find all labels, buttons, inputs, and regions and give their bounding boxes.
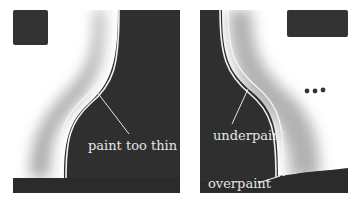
label-paint-too-thin: paint too thin: [88, 138, 178, 153]
top-left-block: [13, 10, 48, 45]
paint-stroke-figure: paint too thin underpaint: [0, 0, 360, 208]
label-overpaint: overpaint: [208, 176, 272, 191]
right-panel: underpaint overpaint: [200, 10, 348, 193]
left-panel: paint too thin: [13, 10, 180, 193]
top-right-block: [287, 10, 348, 37]
label-underpaint: underpaint: [213, 128, 287, 143]
bottom-band-left: [13, 178, 180, 193]
